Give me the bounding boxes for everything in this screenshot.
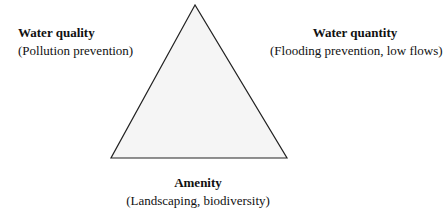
amenity-subtitle: (Landscaping, biodiversity)	[110, 192, 286, 210]
water-quality-subtitle: (Pollution prevention)	[18, 42, 133, 60]
label-water-quantity: Water quantity (Flooding prevention, low…	[270, 24, 440, 60]
water-quality-title: Water quality	[18, 24, 133, 42]
label-amenity: Amenity (Landscaping, biodiversity)	[110, 174, 286, 210]
label-water-quality: Water quality (Pollution prevention)	[18, 24, 133, 60]
triangle-shape	[111, 5, 287, 158]
water-quantity-subtitle: (Flooding prevention, low flows)	[270, 42, 440, 60]
water-quantity-title: Water quantity	[270, 24, 440, 42]
amenity-title: Amenity	[110, 174, 286, 192]
